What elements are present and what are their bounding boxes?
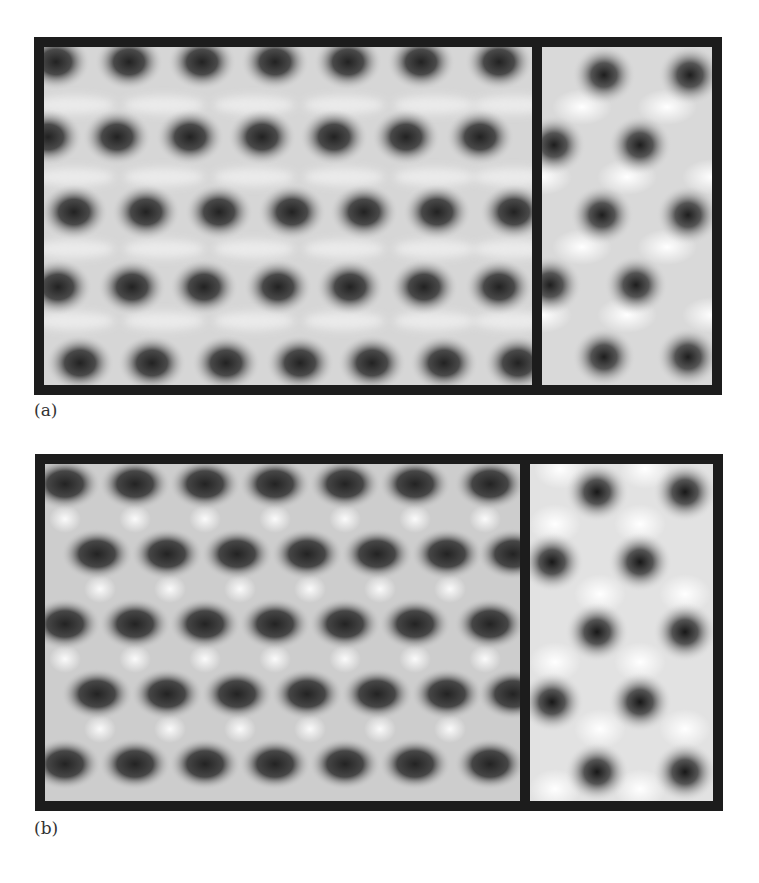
figure-a-label: (a) — [34, 400, 57, 420]
figure-a-simulated-image — [542, 47, 712, 385]
figure-b-experimental-image — [45, 464, 520, 801]
figure-a-experimental-image — [44, 47, 532, 385]
figure-b-simulated-image — [530, 464, 713, 801]
figure-b-label: (b) — [34, 818, 58, 838]
